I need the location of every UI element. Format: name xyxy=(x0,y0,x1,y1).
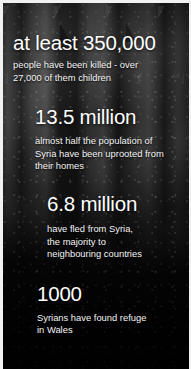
stat-body-displaced: almost half the population of Syria have… xyxy=(35,135,181,173)
stat-headline-killed: at least 350,000 xyxy=(13,32,181,54)
stat-body-killed: people have been killed - over 27,000 of… xyxy=(13,59,181,84)
syria-statistics-infographic: at least 350,000 people have been killed… xyxy=(0,0,191,369)
stat-headline-wales: 1000 xyxy=(37,283,181,305)
stat-body-line: neighbouring countries xyxy=(47,248,181,261)
stat-body-line: people have been killed - over xyxy=(13,59,181,72)
stat-headline-fled: 6.8 million xyxy=(47,193,181,215)
stat-body-line: 27,000 of them children xyxy=(13,72,181,85)
stat-body-line: almost half the population of xyxy=(35,135,181,148)
stat-headline-displaced: 13.5 million xyxy=(35,106,181,128)
stat-block-fled: 6.8 million have fled from Syria, the ma… xyxy=(47,193,181,261)
stat-body-wales: Syrians have found refuge in Wales xyxy=(37,312,181,337)
stat-block-killed: at least 350,000 people have been killed… xyxy=(13,32,181,84)
stat-body-line: Syrians have found refuge xyxy=(37,312,181,325)
stat-body-fled: have fled from Syria, the majority to ne… xyxy=(47,223,181,261)
statistics-list: at least 350,000 people have been killed… xyxy=(0,0,191,337)
stat-block-wales: 1000 Syrians have found refuge in Wales xyxy=(37,283,181,337)
stat-body-line: their homes xyxy=(35,160,181,173)
stat-body-line: Syria have been uprooted from xyxy=(35,148,181,161)
stat-body-line: in Wales xyxy=(37,324,181,337)
stat-body-line: the majority to xyxy=(47,236,181,249)
stat-block-displaced: 13.5 million almost half the population … xyxy=(35,106,181,173)
stat-body-line: have fled from Syria, xyxy=(47,223,181,236)
